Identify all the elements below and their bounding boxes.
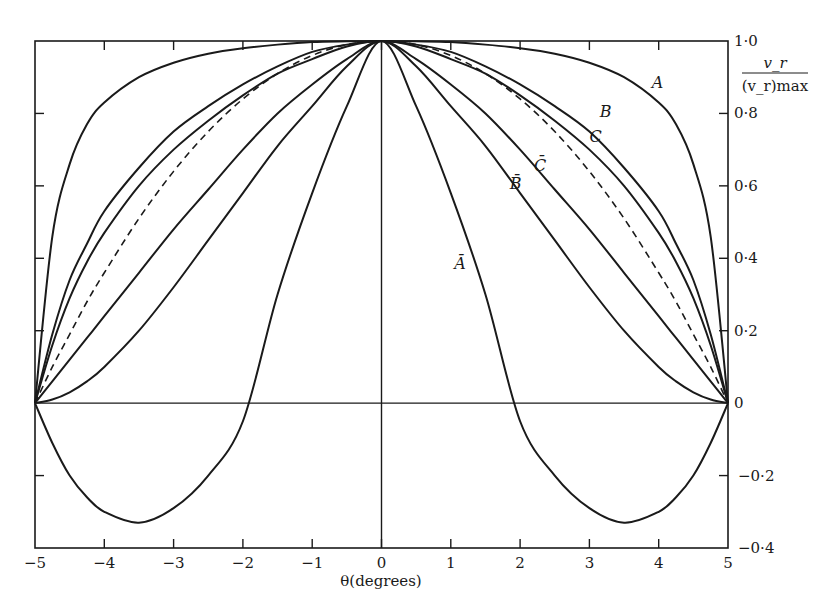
y-axis-ticks: 1·00·80·60·40·20−0·2−0·4: [35, 32, 774, 557]
x-tick-label: 1: [446, 554, 456, 572]
y-axis-title-numerator: v_r: [763, 54, 787, 72]
y-tick-label: −0·4: [738, 539, 774, 557]
y-tick-label: 0: [734, 394, 744, 412]
curve-label: C̄: [534, 154, 546, 175]
y-axis-title: v_r (v_r)max: [742, 54, 809, 95]
y-tick-label: −0·2: [738, 467, 774, 485]
y-tick-label: 0·4: [734, 249, 758, 267]
y-tick-label: 0·8: [734, 104, 758, 122]
chart: −5−4−3−2−1012345 1·00·80·60·40·20−0·2−0·…: [0, 0, 821, 616]
x-tick-label: 5: [723, 554, 733, 572]
y-tick-label: 0·2: [734, 322, 758, 340]
zero-reference-lines: [35, 41, 728, 548]
x-tick-label: 4: [654, 554, 664, 572]
x-axis-title: θ(degrees): [340, 572, 421, 590]
curve-label: Ā: [452, 253, 466, 273]
x-tick-label: 2: [515, 554, 525, 572]
x-tick-label: 3: [585, 554, 595, 572]
x-axis-title-text: θ(degrees): [340, 572, 421, 590]
curve-label: C: [589, 127, 601, 146]
curve-label: B: [599, 102, 612, 121]
x-tick-label: −3: [163, 554, 185, 572]
x-tick-label: −4: [93, 554, 115, 572]
curve-label: A: [650, 73, 664, 92]
curve-label: B̄: [509, 173, 522, 194]
x-tick-label: −5: [24, 554, 46, 572]
y-axis-title-denominator: (v_r)max: [742, 77, 809, 95]
x-tick-label: −1: [301, 554, 323, 572]
x-axis-ticks: −5−4−3−2−1012345: [24, 41, 733, 572]
x-tick-label: 0: [377, 554, 387, 572]
x-tick-label: −2: [232, 554, 254, 572]
y-tick-label: 1·0: [734, 32, 758, 50]
y-tick-label: 0·6: [734, 177, 758, 195]
